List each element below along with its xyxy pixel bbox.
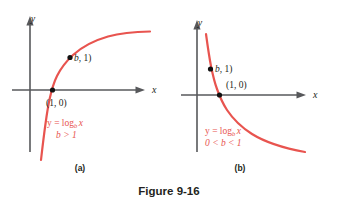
- panel-b-x-axis-arrowhead: [297, 91, 307, 98]
- panel-b: y x b, 1) (1, 0) y = logbx 0 < b < 1 (b): [181, 17, 318, 173]
- figure-container: y x b, 1) (1, 0) y = logbx b > 1 (a): [0, 0, 338, 210]
- panel-a-equation-main: y = log: [47, 118, 74, 128]
- panel-a-point-1-0-dot: [50, 87, 55, 92]
- panel-a-x-axis-label: x: [151, 84, 157, 95]
- panel-a-x-axis-arrowhead: [136, 86, 146, 93]
- panel-a-condition: b > 1: [56, 130, 77, 140]
- panel-b-equation: y = logbx: [205, 126, 242, 137]
- panel-b-equation-main: y = log: [205, 126, 232, 136]
- panel-a-equation-arg: x: [78, 118, 84, 128]
- panel-a-equation: y = logbx: [47, 118, 84, 129]
- panel-b-letter: (b): [235, 163, 246, 173]
- panel-a-y-axis-label: y: [30, 13, 36, 24]
- panel-b-point-b-1-dot: [208, 66, 213, 71]
- panel-b-condition-text: 0 < b < 1: [205, 138, 242, 148]
- panel-b-point-b-1-label: b, 1): [215, 64, 232, 75]
- panel-b-equation-arg: x: [236, 126, 242, 136]
- panel-a-log-curve: [41, 32, 150, 161]
- panel-a-letter: (a): [75, 163, 86, 173]
- panel-b-condition: 0 < b < 1: [205, 138, 242, 148]
- panel-a-point-b-1-dot: [67, 55, 72, 60]
- figure-caption: Figure 9-16: [138, 185, 199, 197]
- panel-b-y-axis-label: y: [197, 17, 203, 28]
- panel-a-equation-base: b: [74, 122, 78, 129]
- panel-a-point-b-1-rest: , 1): [79, 53, 92, 64]
- panel-b-point-1-0-label: (1, 0): [226, 80, 247, 91]
- panel-a-condition-text: b > 1: [56, 130, 77, 140]
- figure-svg: y x b, 1) (1, 0) y = logbx b > 1 (a): [0, 0, 338, 210]
- panel-a-point-b-1-label: b, 1): [74, 53, 91, 64]
- panel-b-x-axis-label: x: [312, 89, 318, 100]
- panel-b-equation-base: b: [232, 130, 236, 137]
- panel-b-point-1-0-dot: [217, 92, 222, 97]
- panel-a: y x b, 1) (1, 0) y = logbx b > 1 (a): [12, 13, 157, 173]
- panel-b-point-b-1-rest: , 1): [220, 64, 233, 75]
- panel-a-point-1-0-label: (1, 0): [46, 98, 67, 109]
